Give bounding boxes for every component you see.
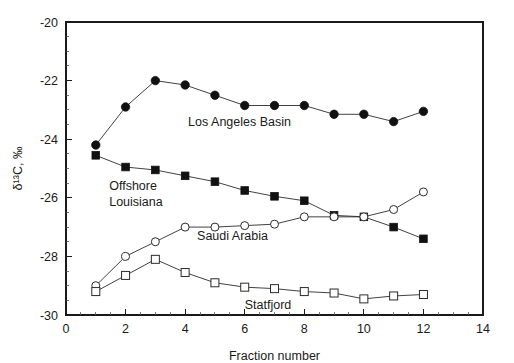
data-point-statfjord bbox=[241, 283, 249, 291]
data-point-los-angeles-basin bbox=[389, 117, 397, 125]
y-tick-label: -30 bbox=[40, 309, 58, 323]
x-axis-title: Fraction number bbox=[229, 349, 320, 363]
data-point-offshore-louisiana bbox=[181, 172, 189, 180]
series-label-offshore-louisiana: Offshore bbox=[109, 179, 157, 193]
y-axis-title: δ¹³C, ‰ bbox=[11, 146, 25, 190]
data-point-offshore-louisiana bbox=[122, 163, 130, 171]
data-point-statfjord bbox=[211, 279, 219, 287]
data-point-los-angeles-basin bbox=[419, 107, 427, 115]
y-axis-title: δ¹³C, ‰ bbox=[11, 146, 25, 190]
data-point-los-angeles-basin bbox=[360, 110, 368, 118]
data-point-offshore-louisiana bbox=[420, 235, 428, 243]
data-point-offshore-louisiana bbox=[300, 197, 308, 205]
x-tick-label: 4 bbox=[182, 322, 189, 336]
data-point-statfjord bbox=[122, 271, 130, 279]
x-axis-title: Fraction number bbox=[229, 349, 320, 363]
data-point-offshore-louisiana bbox=[390, 223, 398, 231]
data-point-los-angeles-basin bbox=[270, 101, 278, 109]
y-tick-label: -24 bbox=[40, 133, 58, 147]
data-point-statfjord bbox=[92, 288, 100, 296]
data-point-statfjord bbox=[181, 269, 189, 277]
series-label-offshore-louisiana: Louisiana bbox=[109, 195, 163, 209]
chart-figure: 02468101214 -30-28-26-24-22-20 Los Angel… bbox=[0, 0, 514, 363]
x-tick-label: 8 bbox=[301, 322, 308, 336]
data-point-statfjord bbox=[360, 295, 368, 303]
data-point-los-angeles-basin bbox=[181, 81, 189, 89]
series-line-los-angeles-basin bbox=[96, 81, 424, 145]
data-point-statfjord bbox=[390, 292, 398, 300]
data-point-saudi-arabia bbox=[419, 188, 427, 196]
data-point-los-angeles-basin bbox=[121, 103, 129, 111]
data-point-offshore-louisiana bbox=[211, 178, 219, 186]
series-label-los-angeles-basin: Los Angeles Basin bbox=[188, 115, 291, 129]
data-point-statfjord bbox=[300, 288, 308, 296]
series-label-statfjord: Statfjord bbox=[245, 298, 292, 312]
data-point-offshore-louisiana bbox=[241, 187, 249, 195]
x-axis-tick-labels: 02468101214 bbox=[63, 322, 490, 336]
data-point-saudi-arabia bbox=[330, 213, 338, 221]
x-tick-label: 2 bbox=[122, 322, 129, 336]
data-point-los-angeles-basin bbox=[300, 101, 308, 109]
data-point-saudi-arabia bbox=[271, 220, 279, 228]
y-tick-label: -26 bbox=[40, 191, 58, 205]
x-tick-label: 14 bbox=[476, 322, 490, 336]
series-annotations: Los Angeles BasinOffshoreLouisianaSaudi … bbox=[109, 115, 291, 312]
data-point-saudi-arabia bbox=[360, 213, 368, 221]
data-point-los-angeles-basin bbox=[241, 101, 249, 109]
x-tick-label: 10 bbox=[357, 322, 371, 336]
y-tick-label: -20 bbox=[40, 16, 58, 30]
data-point-saudi-arabia bbox=[390, 206, 398, 214]
data-point-statfjord bbox=[271, 285, 279, 293]
data-point-los-angeles-basin bbox=[151, 76, 159, 84]
series-label-saudi-arabia: Saudi Arabia bbox=[197, 229, 268, 243]
data-point-los-angeles-basin bbox=[330, 110, 338, 118]
y-tick-label: -28 bbox=[40, 250, 58, 264]
data-point-statfjord bbox=[419, 290, 427, 298]
data-point-offshore-louisiana bbox=[271, 193, 279, 201]
data-point-statfjord bbox=[330, 289, 338, 297]
chart-svg: 02468101214 -30-28-26-24-22-20 Los Angel… bbox=[0, 0, 514, 363]
data-point-saudi-arabia bbox=[181, 223, 189, 231]
data-point-offshore-louisiana bbox=[92, 152, 100, 160]
x-tick-label: 6 bbox=[241, 322, 248, 336]
data-point-los-angeles-basin bbox=[92, 141, 100, 149]
data-point-offshore-louisiana bbox=[152, 166, 160, 174]
data-point-saudi-arabia bbox=[122, 252, 130, 260]
data-point-los-angeles-basin bbox=[211, 91, 219, 99]
y-axis-ticks bbox=[66, 22, 72, 315]
x-tick-label: 0 bbox=[63, 322, 70, 336]
data-point-statfjord bbox=[151, 255, 159, 263]
series-line-statfjord bbox=[96, 259, 424, 299]
x-tick-label: 12 bbox=[416, 322, 430, 336]
y-axis-tick-labels: -30-28-26-24-22-20 bbox=[40, 16, 58, 323]
data-point-saudi-arabia bbox=[151, 238, 159, 246]
y-tick-label: -22 bbox=[40, 74, 58, 88]
data-point-saudi-arabia bbox=[300, 213, 308, 221]
